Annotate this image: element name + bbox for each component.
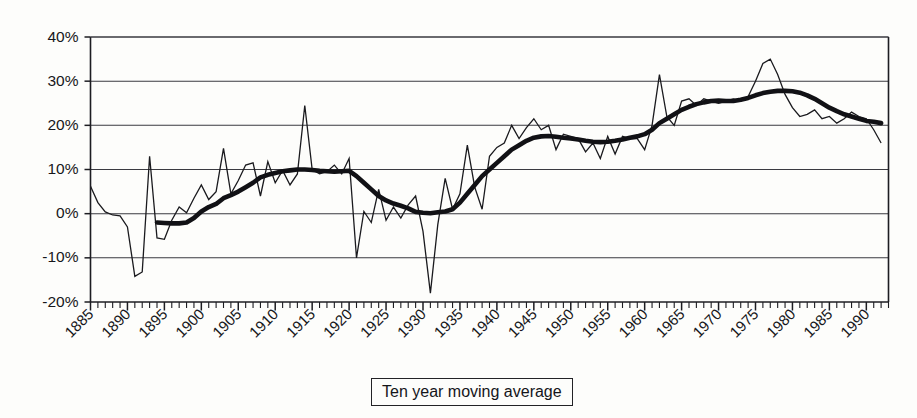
x-axis-tick-labels: 1885189018951900190519101915192019251930… — [61, 305, 872, 341]
x-tick-label: 1930 — [394, 305, 430, 341]
x-tick-label: 1975 — [726, 305, 762, 341]
y-tick-label: 0% — [56, 204, 79, 221]
x-tick-label: 1985 — [800, 305, 836, 341]
x-tick-label: 1915 — [283, 305, 319, 341]
series-line-moving-average — [157, 91, 881, 224]
y-axis-ticks — [85, 37, 91, 302]
x-tick-label: 1960 — [615, 305, 651, 341]
x-tick-label: 1965 — [652, 305, 688, 341]
x-tick-label: 1900 — [172, 305, 208, 341]
x-tick-label: 1890 — [98, 305, 134, 341]
x-tick-label: 1905 — [209, 305, 245, 341]
y-tick-label: -20% — [42, 293, 78, 310]
gridlines — [91, 37, 889, 258]
y-axis-tick-labels: 40%30%20%10%0%-10%-20% — [42, 28, 78, 310]
x-tick-label: 1940 — [467, 305, 503, 341]
y-tick-label: 20% — [47, 116, 78, 133]
x-tick-label: 1885 — [61, 305, 97, 341]
x-tick-label: 1990 — [837, 305, 873, 341]
x-tick-label: 1980 — [763, 305, 799, 341]
chart-container: 40%30%20%10%0%-10%-20% 18851890189519001… — [0, 0, 917, 418]
x-tick-label: 1970 — [689, 305, 725, 341]
x-tick-label: 1925 — [357, 305, 393, 341]
x-tick-label: 1955 — [578, 305, 614, 341]
x-tick-label: 1920 — [320, 305, 356, 341]
y-tick-label: 10% — [47, 160, 78, 177]
x-tick-label: 1950 — [541, 305, 577, 341]
legend: Ten year moving average — [371, 378, 573, 406]
y-tick-label: -10% — [42, 248, 78, 265]
x-tick-label: 1935 — [430, 305, 466, 341]
y-tick-label: 30% — [47, 72, 78, 89]
legend-label: Ten year moving average — [382, 383, 562, 400]
x-tick-label: 1945 — [504, 305, 540, 341]
y-tick-label: 40% — [47, 28, 78, 45]
x-tick-label: 1895 — [135, 305, 171, 341]
line-chart: 40%30%20%10%0%-10%-20% 18851890189519001… — [0, 0, 917, 418]
x-tick-label: 1910 — [246, 305, 282, 341]
